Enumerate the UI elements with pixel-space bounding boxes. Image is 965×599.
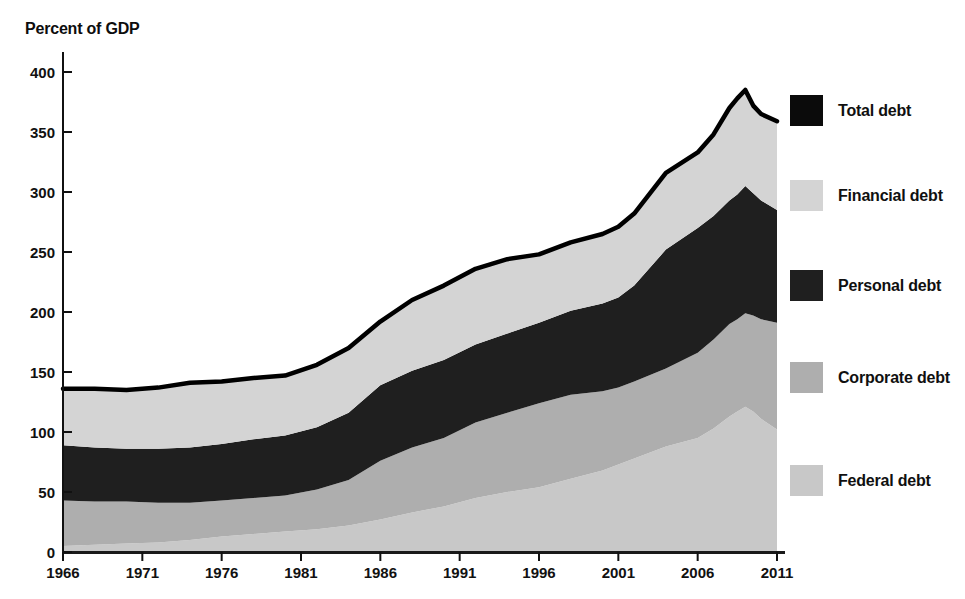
y-tick-label-150: 150 — [30, 364, 55, 381]
y-tick-label-0: 0 — [47, 544, 55, 561]
x-tick-label-1981: 1981 — [284, 564, 317, 581]
y-tick-label-350: 350 — [30, 124, 55, 141]
x-tick-label-1991: 1991 — [443, 564, 476, 581]
x-tick-label-2011: 2011 — [761, 564, 794, 581]
y-tick-label-100: 100 — [30, 424, 55, 441]
y-tick-label-400: 400 — [30, 64, 55, 81]
x-tick-label-1966: 1966 — [46, 564, 79, 581]
chart-title: Percent of GDP — [25, 20, 140, 38]
x-tick-label-2006: 2006 — [681, 564, 714, 581]
x-tick-label-1971: 1971 — [126, 564, 159, 581]
x-tick-label-2001: 2001 — [602, 564, 635, 581]
x-tick-label-1986: 1986 — [364, 564, 397, 581]
y-tick-label-50: 50 — [38, 484, 55, 501]
stacked-area-chart-canvas: 0501001502002503003504001966197119761981… — [0, 0, 965, 599]
y-tick-label-300: 300 — [30, 184, 55, 201]
y-tick-label-200: 200 — [30, 304, 55, 321]
x-tick-label-1996: 1996 — [522, 564, 555, 581]
x-tick-label-1976: 1976 — [205, 564, 238, 581]
y-tick-label-250: 250 — [30, 244, 55, 261]
debt-percent-of-gdp-figure: 0501001502002503003504001966197119761981… — [0, 0, 965, 599]
